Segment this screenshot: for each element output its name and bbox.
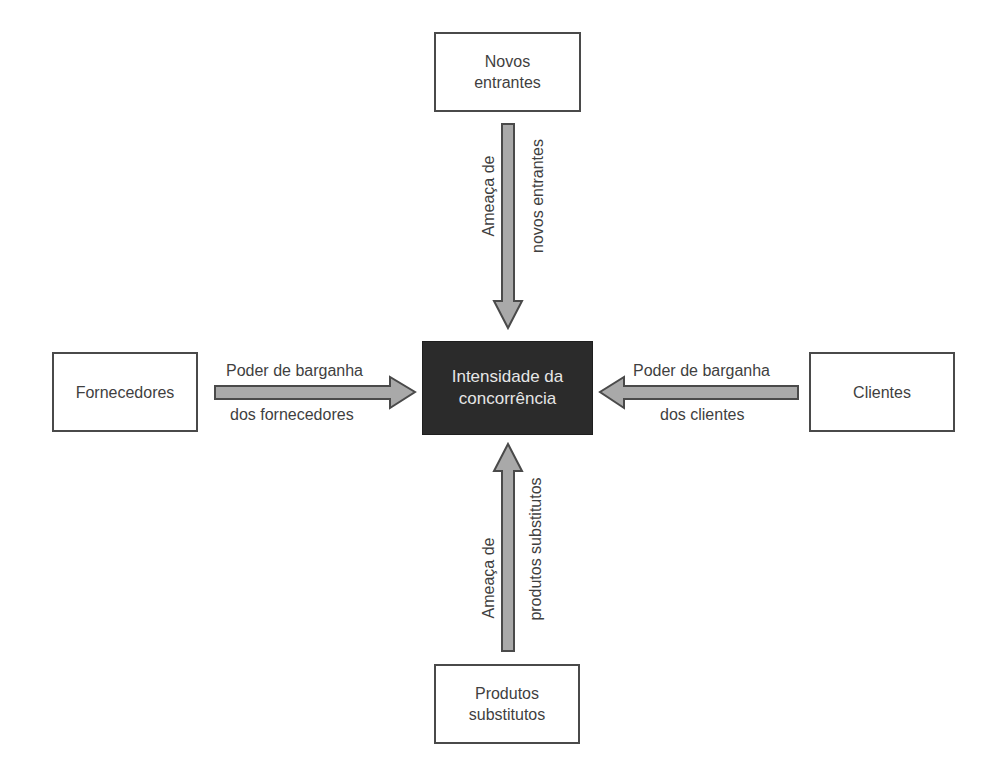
produtos-substitutos-arrow-label-2: produtos substitutos: [527, 464, 545, 634]
fornecedores-arrow-label-1: Poder de barganha: [226, 362, 363, 380]
clientes-arrow-label-2: dos clientes: [660, 406, 745, 424]
produtos-substitutos-box: Produtos substitutos: [434, 664, 580, 744]
arrow-right-icon: [215, 377, 415, 408]
novos-entrantes-line2: entrantes: [474, 72, 541, 93]
novos-entrantes-line1: Novos: [474, 51, 541, 72]
produtos-substitutos-line1: Produtos: [469, 683, 545, 704]
clientes-arrow-label-1: Poder de barganha: [633, 362, 770, 380]
novos-entrantes-box: Novos entrantes: [434, 32, 581, 112]
clientes-label: Clientes: [853, 382, 911, 403]
center-line2: concorrência: [452, 388, 564, 410]
arrow-down-icon: [494, 124, 522, 328]
fornecedores-label: Fornecedores: [76, 382, 175, 403]
center-line1: Intensidade da: [452, 366, 564, 388]
produtos-substitutos-line2: substitutos: [469, 704, 545, 725]
clientes-box: Clientes: [809, 352, 955, 432]
produtos-substitutos-arrow-label-1: Ameaça de: [480, 528, 498, 628]
fornecedores-box: Fornecedores: [52, 352, 198, 432]
intensidade-concorrencia-box: Intensidade da concorrência: [422, 341, 593, 435]
novos-entrantes-arrow-label-2: novos entrantes: [529, 121, 547, 271]
fornecedores-arrow-label-2: dos fornecedores: [230, 406, 354, 424]
novos-entrantes-arrow-label-1: Ameaça de: [480, 146, 498, 246]
arrow-left-icon: [600, 377, 798, 408]
arrow-up-icon: [494, 444, 522, 651]
